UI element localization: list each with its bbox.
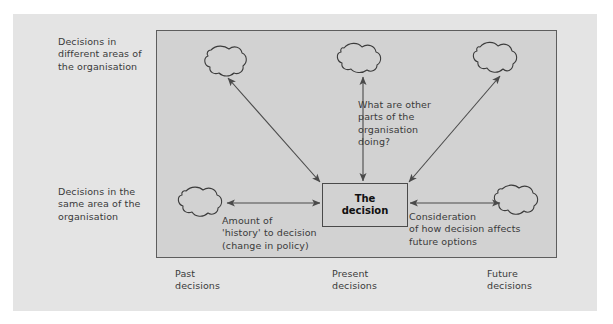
side-label-same-area: Decisions in the same area of the organi…	[58, 186, 178, 223]
axis-label-future-decisions: Future decisions	[487, 268, 577, 293]
axis-label-present-decisions: Present decisions	[332, 268, 422, 293]
note-history-to-decision: Amount of 'history' to decision (change …	[222, 215, 344, 252]
note-other-parts: What are other parts of the organisation…	[358, 99, 468, 149]
note-consideration-future-options: Consideration of how decision affects fu…	[409, 211, 549, 248]
axis-label-past-decisions: Past decisions	[175, 268, 265, 293]
decision-diagram-figure: The decision Decisions in different area…	[0, 0, 613, 324]
side-label-different-areas: Decisions in different areas of the orga…	[58, 36, 178, 73]
decision-node-label: The decision	[342, 193, 389, 218]
